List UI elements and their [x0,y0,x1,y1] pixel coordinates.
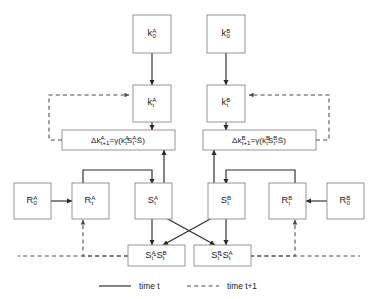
node-kA0: kA0 [133,15,171,53]
legend-label-time-t: time t [139,281,160,291]
node-RAt: RAt [72,183,109,219]
equation-deltaB-label: ΔkBt+1=γ(kBtSBt-S̄) [232,134,286,147]
node-RB0: RB0 [327,183,364,219]
node-SAt: SAt [135,183,172,219]
node-diff-BA: SBt-SAt [194,245,251,266]
diff-BA-label: SBt-SAt [211,249,233,262]
edge-SAt-to-diffBA [166,218,215,245]
edge-diffAB-feedback-to-RAt [83,220,128,256]
node-diff-AB: SAt-SBt [128,245,185,266]
diagram-canvas: kA0 kB0 kAt kBt ΔkAt+1= [0,0,378,299]
diagram-svg: kA0 kB0 kAt kBt ΔkAt+1= [0,0,378,299]
equation-deltaA-label: ΔkAt+1=γ(kAtSAt-S̄) [91,134,145,147]
node-equation-deltaB: ΔkBt+1=γ(kBtSBt-S̄) [203,130,316,150]
node-kBt: kBt [207,85,245,122]
legend-label-time-t1: time t+1 [227,281,257,291]
node-equation-deltaA: ΔkAt+1=γ(kAtSAt-S̄) [62,130,175,150]
diff-AB-label: SAt-SBt [145,249,167,262]
node-RA0: RA0 [14,183,51,219]
node-kB0: kB0 [207,15,245,53]
dashed-connectors [18,95,360,256]
edge-SBt-to-diffAB [163,218,212,245]
node-kAt: kAt [133,85,171,122]
node-RA0-label: RA0 [27,194,39,207]
node-RB0-label: RB0 [340,194,351,207]
node-kB0-label: kB0 [222,27,231,40]
legend: time t time t+1 [99,281,257,291]
node-RBt: RBt [269,183,306,219]
node-kA0-label: kA0 [148,27,158,40]
edge-diffBA-feedback-to-RBt [250,220,295,256]
node-SBt: SBt [208,183,245,219]
